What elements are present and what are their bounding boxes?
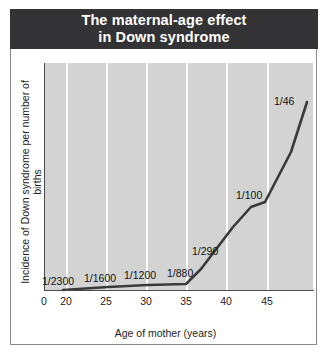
- data-label-1-2300: 1/2300: [42, 275, 74, 287]
- x-tick-45: 45: [254, 295, 280, 307]
- data-label-1-1600: 1/1600: [84, 272, 116, 284]
- x-axis-line: [44, 290, 314, 291]
- x-axis-title: Age of mother (years): [0, 327, 331, 339]
- x-tick-40: 40: [213, 295, 239, 307]
- chart-figure: The maternal-age effect in Down syndrome…: [0, 0, 331, 356]
- x-tick-20: 20: [53, 295, 79, 307]
- x-tick-35: 35: [173, 295, 199, 307]
- data-label-1-46: 1/46: [274, 95, 294, 107]
- x-tick-25: 25: [93, 295, 119, 307]
- data-label-1-1200: 1/1200: [124, 269, 156, 281]
- incidence-curve: [63, 102, 307, 290]
- data-label-1-880: 1/880: [167, 267, 193, 279]
- x-tick-30: 30: [133, 295, 159, 307]
- data-label-1-290: 1/290: [192, 245, 218, 257]
- y-axis-title: Incidence of Down syndrome per number of…: [19, 67, 43, 297]
- data-label-1-100: 1/100: [236, 189, 262, 201]
- y-axis-line: [44, 63, 45, 291]
